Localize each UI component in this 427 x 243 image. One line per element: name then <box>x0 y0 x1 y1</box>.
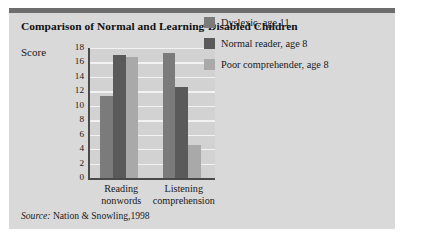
legend-item[interactable]: Dyslexic, age 11 <box>204 14 356 31</box>
legend-label: Poor comprehender, age 8 <box>221 59 329 70</box>
source-note: Source: Nation & Snowling,1998 <box>21 210 150 221</box>
legend-item[interactable]: Poor comprehender, age 8 <box>204 56 356 73</box>
y-tick-label: 16 <box>75 58 84 67</box>
legend-swatch-icon <box>204 38 215 49</box>
plot-area <box>90 48 215 178</box>
y-tick-label: 4 <box>79 145 84 154</box>
legend-swatch-icon <box>204 17 215 28</box>
gridline <box>90 62 215 63</box>
y-tick-label: 14 <box>75 72 84 81</box>
source-citation: Nation & Snowling,1998 <box>53 210 150 221</box>
bar <box>188 145 201 178</box>
y-tick-label: 18 <box>75 43 84 52</box>
chart-legend: Dyslexic, age 11Normal reader, age 8Poor… <box>204 14 356 77</box>
bar <box>100 96 113 178</box>
y-axis-ticks: 181614121086420 <box>66 48 88 178</box>
y-tick-label: 8 <box>79 116 84 125</box>
y-tick-label: 2 <box>79 159 84 168</box>
x-tick-label: Listeningcomprehension <box>124 183 244 208</box>
y-tick-label: 6 <box>79 130 84 139</box>
bar <box>126 57 139 178</box>
bar <box>175 87 188 178</box>
y-tick-label: 0 <box>79 173 84 182</box>
gridline <box>90 91 215 92</box>
x-tick-label-line: comprehension <box>124 195 244 207</box>
x-axis-line <box>88 178 215 180</box>
x-tick-label-line: Listening <box>124 183 244 195</box>
legend-swatch-icon <box>204 59 215 70</box>
y-axis-title: Score <box>21 46 46 58</box>
legend-label: Dyslexic, age 11 <box>221 17 290 28</box>
gridline <box>90 48 215 49</box>
legend-label: Normal reader, age 8 <box>221 38 308 49</box>
screenshot-root: Comparison of Normal and Learning-Disabl… <box>0 0 427 243</box>
gridline <box>90 77 215 78</box>
legend-item[interactable]: Normal reader, age 8 <box>204 35 356 52</box>
figure-top-rule <box>9 8 395 13</box>
source-keyword: Source: <box>21 210 50 221</box>
y-tick-label: 12 <box>75 87 84 96</box>
y-tick-label: 10 <box>75 101 84 110</box>
bar <box>163 53 176 178</box>
bar <box>113 55 126 178</box>
